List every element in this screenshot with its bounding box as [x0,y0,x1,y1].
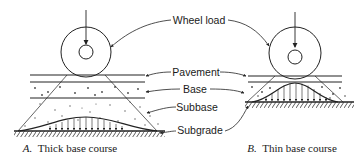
spread-line-left-b [247,76,275,102]
leader-base-a [146,89,180,92]
leader-pavement-b [220,72,246,76]
subgrade-hatch-a [14,131,165,137]
subgrade-hatch-b [245,102,354,108]
spread-line-left-a [18,75,67,131]
leader-wheel-load-b [228,20,269,46]
caption-b: B. Thin base course [247,142,337,154]
wheel-hub-a [79,45,93,59]
label-wheel-load: Wheel load [173,14,226,26]
leader-base-b [210,89,244,93]
label-pavement: Pavement [172,66,219,78]
leader-wheel-load-a [111,20,171,47]
subbase-aggregate-dots [24,101,158,126]
pavement-load-distribution-diagram: A. Thick base course [0,0,356,158]
pressure-curve-a [18,117,157,131]
leader-pavement-a [146,72,171,76]
leader-subbase-a [147,107,176,113]
panel-a-thick-base: A. Thick base course [14,10,165,154]
wheel-hub-b [288,50,302,64]
label-base: Base [183,83,207,95]
pressure-arrows-a [50,117,122,130]
panel-b-thin-base: B. Thin base course [245,12,354,154]
leader-subgrade-b [225,106,248,131]
caption-a: A. Thick base course [22,142,118,154]
spread-line-right-b [315,76,343,102]
label-subbase: Subbase [176,101,218,113]
label-subgrade: Subgrade [177,124,223,136]
spread-line-right-a [105,75,157,131]
